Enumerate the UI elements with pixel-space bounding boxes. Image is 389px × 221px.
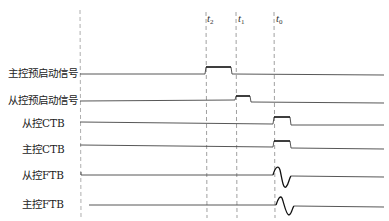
- master-ftb-label: 主控FTB: [22, 198, 64, 210]
- master-ftb-tail: [294, 206, 384, 207]
- master-ctb-waveform: [80, 141, 384, 149]
- slave-ftb-label: 从控FTB: [22, 169, 64, 181]
- timing-diagram: t2 t1 t0 主控预启动信号 从控预启动信号 从控CTB 主控CTB 从控F…: [0, 0, 389, 221]
- timing-diagram-canvas: [0, 0, 389, 221]
- t2-label: t2: [207, 12, 214, 28]
- t2-dashed-line: [206, 12, 207, 218]
- t1-label: t1: [238, 12, 245, 28]
- slave-ftb-oscillation: [273, 167, 291, 187]
- t1-label-sub: 1: [241, 18, 245, 26]
- t1-dashed-line: [236, 12, 237, 218]
- master-pre-start-label: 主控预启动信号: [8, 67, 78, 79]
- slave-ctb-label: 从控CTB: [22, 117, 65, 129]
- master-pre-start-waveform: [80, 67, 384, 75]
- t0-label: t0: [276, 12, 283, 28]
- master-ctb-label: 主控CTB: [22, 143, 65, 155]
- t2-label-sub: 2: [210, 18, 214, 26]
- slave-ctb-waveform: [80, 117, 384, 125]
- master-ftb-oscillation: [276, 197, 294, 215]
- slave-ftb-waveform: [81, 172, 273, 175]
- slave-pre-start-label: 从控预启动信号: [8, 94, 78, 106]
- slave-ftb-tail: [291, 176, 384, 177]
- t0-dashed-line: [274, 12, 275, 218]
- slave-pre-start-waveform: [80, 96, 384, 103]
- t0-label-sub: 0: [279, 18, 283, 26]
- reference-dashed-line: [80, 10, 81, 218]
